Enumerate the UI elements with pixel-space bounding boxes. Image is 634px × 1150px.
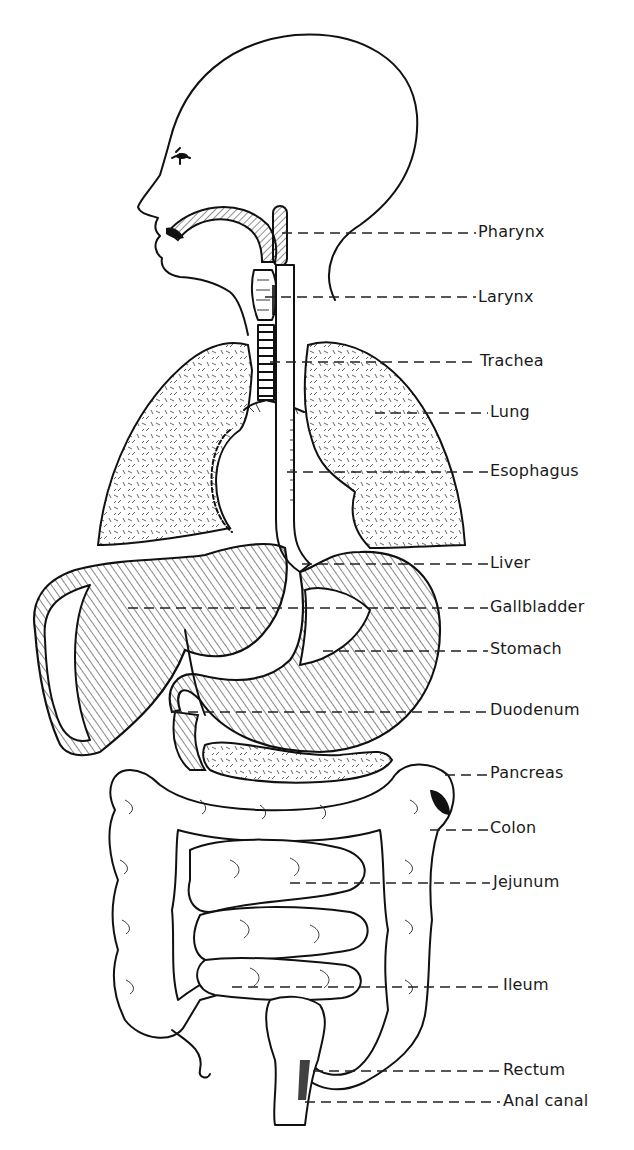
label-pancreas: Pancreas	[490, 763, 563, 783]
label-esophagus: Esophagus	[490, 461, 579, 481]
label-trachea: Trachea	[480, 351, 544, 371]
label-rectum: Rectum	[503, 1060, 565, 1080]
label-pharynx: Pharynx	[478, 222, 545, 242]
label-stomach: Stomach	[490, 639, 562, 659]
label-jejunum: Jejunum	[493, 872, 559, 892]
esophagus-tube	[276, 265, 310, 572]
small-intestine	[189, 840, 368, 1001]
label-larynx: Larynx	[478, 287, 534, 307]
label-liver: Liver	[490, 553, 530, 573]
label-duodenum: Duodenum	[490, 700, 580, 720]
label-gallbladder: Gallbladder	[490, 597, 584, 617]
label-colon: Colon	[490, 818, 536, 838]
label-lung: Lung	[490, 402, 530, 422]
duodenum-shape	[173, 712, 205, 770]
label-anal-canal: Anal canal	[503, 1091, 588, 1111]
label-ileum: Ileum	[503, 975, 549, 995]
rectum	[266, 997, 325, 1125]
pharynx-structure	[166, 206, 287, 266]
